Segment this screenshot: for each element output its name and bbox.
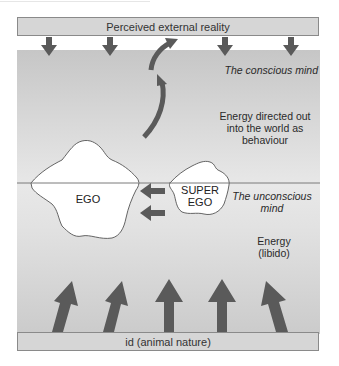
down-arrow-icon bbox=[217, 37, 233, 56]
down-arrow-icon bbox=[41, 37, 57, 56]
curved-arrow-upper bbox=[151, 43, 170, 70]
up-arrow-icon bbox=[52, 281, 78, 332]
superego-label: SUPER EGO bbox=[178, 184, 222, 208]
bottom-bar-label: id (animal nature) bbox=[125, 336, 211, 348]
libido-annotation: Energy (libido) bbox=[244, 235, 304, 259]
id-animal-nature-bar: id (animal nature) bbox=[17, 332, 319, 351]
up-arrow-icon bbox=[261, 281, 288, 332]
behaviour-line2: into the world as bbox=[212, 122, 318, 134]
curved-up-arrows bbox=[144, 38, 178, 137]
up-arrows bbox=[52, 279, 288, 332]
ego-label: EGO bbox=[68, 193, 108, 205]
behaviour-line3: behaviour bbox=[212, 134, 318, 146]
unconscious-line2: mind bbox=[222, 202, 322, 214]
down-arrow-icon bbox=[283, 37, 299, 56]
unconscious-line1: The unconscious bbox=[222, 190, 322, 202]
left-arrows bbox=[140, 183, 165, 221]
left-arrow-icon bbox=[140, 183, 165, 199]
conscious-mind-label: The conscious mind bbox=[214, 64, 318, 76]
up-arrow-icon bbox=[155, 279, 183, 332]
up-arrow-icon bbox=[103, 281, 128, 332]
ego-iceberg bbox=[31, 140, 139, 238]
left-arrow-icon bbox=[140, 205, 165, 221]
down-arrow-icon bbox=[102, 37, 118, 56]
behaviour-line1: Energy directed out bbox=[212, 110, 318, 122]
libido-line2: (libido) bbox=[244, 247, 304, 259]
diagram-graphics bbox=[0, 0, 339, 366]
libido-line1: Energy bbox=[244, 235, 304, 247]
unconscious-mind-label: The unconscious mind bbox=[222, 190, 322, 214]
behaviour-annotation: Energy directed out into the world as be… bbox=[212, 110, 318, 146]
up-arrow-icon bbox=[208, 279, 236, 332]
curved-arrow-lower-head-icon bbox=[157, 74, 167, 86]
curved-arrow-lower bbox=[144, 82, 163, 137]
superego-label-line1: SUPER bbox=[178, 184, 222, 196]
superego-label-line2: EGO bbox=[178, 196, 222, 208]
